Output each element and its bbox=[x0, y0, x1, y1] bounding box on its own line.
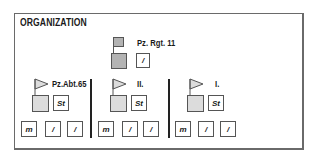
battalion-staff-box: St bbox=[208, 95, 224, 111]
company-box: m bbox=[98, 121, 114, 137]
flag-icon bbox=[189, 78, 205, 96]
company-box: / bbox=[45, 121, 61, 137]
regiment-staff-box: / bbox=[136, 53, 150, 68]
company-box: m bbox=[21, 121, 37, 137]
battalion-label: II. bbox=[137, 79, 143, 89]
battalion-label: Pz.Abt.65 bbox=[52, 79, 86, 89]
battalion-unit-symbol bbox=[187, 95, 204, 112]
battalion-label: I. bbox=[215, 79, 219, 89]
group-divider bbox=[90, 79, 92, 138]
flag-icon bbox=[112, 78, 128, 96]
company-box: / bbox=[122, 121, 138, 137]
regiment-unit-symbol bbox=[111, 53, 127, 69]
regiment-hq-symbol bbox=[113, 37, 124, 47]
regiment-label: Pz. Rgt. 11 bbox=[137, 38, 175, 48]
company-box: / bbox=[198, 121, 214, 137]
battalion-unit-symbol bbox=[110, 95, 127, 112]
company-box: / bbox=[220, 121, 236, 137]
group-divider bbox=[168, 79, 170, 138]
company-box: / bbox=[143, 121, 159, 137]
company-box: m bbox=[175, 121, 191, 137]
flag-icon bbox=[34, 78, 50, 96]
battalion-unit-symbol bbox=[32, 95, 49, 112]
battalion-staff-box: St bbox=[53, 95, 69, 111]
battalion-staff-box: St bbox=[131, 95, 147, 111]
company-box: / bbox=[67, 121, 83, 137]
diagram-title: ORGANIZATION bbox=[20, 16, 87, 28]
